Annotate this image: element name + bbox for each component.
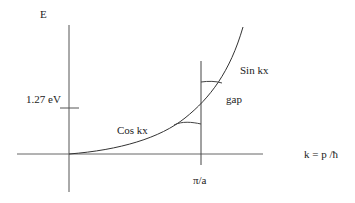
wavevector-axis-label: k = p /ħ (304, 148, 338, 160)
upper-branch-label: Sin kx (240, 64, 268, 76)
zone-boundary-label: π/a (193, 174, 207, 186)
energy-tick-label: 1.27 eV (26, 93, 61, 105)
lower-branch-label: Cos kx (117, 124, 148, 136)
gap-label: gap (226, 93, 242, 105)
energy-axis-label: E (40, 8, 47, 20)
free-electron-curve (69, 27, 243, 154)
band-gap-diagram: E 1.27 eV Sin kx gap Cos kx π/a k = p /ħ (0, 0, 355, 203)
